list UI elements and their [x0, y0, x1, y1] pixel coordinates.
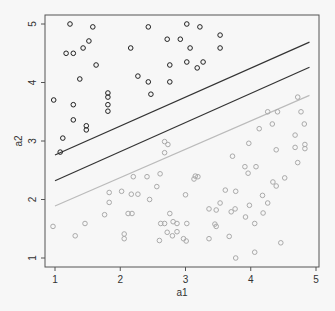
data-point-class_a [71, 118, 76, 123]
data-point-class_b [122, 232, 127, 237]
data-point-class_a [128, 46, 133, 51]
data-point-class_b [107, 200, 112, 205]
data-point-class_b [257, 126, 262, 131]
decision-boundary-line [55, 67, 309, 180]
data-point-class_b [247, 203, 252, 208]
x-axis: 12345 [52, 267, 319, 285]
data-point-class_b [254, 164, 259, 169]
data-point-class_a [218, 46, 223, 51]
data-point-class_b [165, 230, 170, 235]
data-point-class_b [207, 236, 212, 241]
y-tick-label: 2 [27, 196, 38, 202]
data-point-class_a [146, 25, 151, 30]
data-point-class_a [94, 63, 99, 68]
data-point-class_a [168, 80, 173, 85]
data-point-class_a [185, 60, 190, 65]
data-point-class_b [243, 164, 248, 169]
data-point-class_a [78, 77, 83, 82]
data-point-class_b [183, 193, 188, 198]
data-point-class_b [73, 234, 78, 239]
data-point-class_b [243, 215, 248, 220]
data-point-class_b [274, 148, 279, 153]
data-point-class_b [282, 176, 287, 181]
data-point-class_a [64, 51, 69, 56]
data-point-class_b [295, 95, 300, 100]
y-axis: 12345 [27, 21, 45, 261]
data-point-class_b [293, 145, 298, 150]
data-point-class_b [271, 180, 276, 185]
data-point-class_b [265, 201, 270, 206]
x-tick-label: 4 [248, 274, 254, 285]
data-point-class_a [198, 25, 203, 30]
x-tick-label: 3 [183, 274, 189, 285]
data-point-class_b [261, 211, 266, 216]
data-point-class_b [233, 207, 238, 212]
data-point-class_b [122, 236, 127, 241]
data-point-class_b [295, 160, 300, 165]
data-point-class_a [188, 46, 193, 51]
data-point-class_b [170, 234, 175, 239]
upper-margin-line [55, 42, 309, 155]
data-point-class_a [185, 22, 190, 27]
data-point-class_b [158, 172, 163, 177]
data-point-class_a [68, 22, 73, 27]
data-point-class_b [157, 238, 162, 243]
data-point-class_a [146, 80, 151, 85]
data-point-class_b [162, 150, 167, 155]
data-point-class_b [51, 224, 56, 229]
data-point-class_b [233, 189, 238, 194]
data-point-class_a [71, 102, 76, 107]
lower-margin-line [55, 95, 309, 206]
data-point-class_a [149, 92, 154, 97]
data-point-class_b [136, 192, 141, 197]
data-point-class_a [201, 60, 206, 65]
data-point-class_b [252, 221, 257, 226]
data-point-class_b [302, 122, 307, 127]
data-point-class_a [51, 98, 56, 103]
x-tick-label: 1 [52, 274, 58, 285]
data-point-class_a [168, 63, 173, 68]
y-tick-label: 3 [27, 138, 38, 144]
data-point-class_b [279, 241, 284, 246]
data-point-class_a [165, 37, 170, 42]
data-point-class_b [260, 193, 265, 198]
data-point-class_b [119, 189, 124, 194]
x-tick-label: 2 [117, 274, 123, 285]
data-point-class_b [223, 188, 228, 193]
data-point-class_b [275, 110, 280, 115]
data-point-class_b [274, 184, 279, 189]
data-point-class_a [218, 33, 223, 38]
data-point-class_b [175, 221, 180, 226]
data-point-class_b [214, 208, 219, 213]
data-point-class_b [230, 154, 235, 159]
data-point-class_a [106, 109, 111, 114]
x-axis-label: a1 [176, 287, 188, 298]
data-point-class_b [246, 171, 251, 176]
data-point-class_b [83, 221, 88, 226]
data-point-class_a [136, 74, 141, 79]
data-point-class_a [81, 46, 86, 51]
y-tick-label: 1 [27, 255, 38, 261]
data-point-class_b [155, 184, 160, 189]
scatter-chart: 12345 12345 a1 a2 [0, 0, 335, 311]
y-axis-label: a2 [13, 135, 24, 147]
data-point-class_a [61, 136, 66, 141]
data-point-class_b [168, 211, 173, 216]
data-point-class_a [71, 51, 76, 56]
data-point-class_b [166, 142, 171, 147]
data-point-class_b [147, 197, 152, 202]
data-point-class_a [195, 66, 200, 71]
data-point-class_b [131, 174, 136, 179]
data-point-class_b [247, 141, 252, 146]
data-point-class_b [299, 110, 304, 115]
y-tick-label: 5 [27, 21, 38, 27]
data-point-class_b [145, 174, 150, 179]
data-point-class_b [175, 229, 180, 234]
data-point-class_b [107, 190, 112, 195]
y-tick-label: 4 [27, 79, 38, 85]
data-point-class_a [178, 37, 183, 42]
data-point-class_a [106, 102, 111, 107]
data-point-class_b [129, 192, 134, 197]
data-point-class_b [207, 207, 212, 212]
data-points [51, 22, 308, 261]
